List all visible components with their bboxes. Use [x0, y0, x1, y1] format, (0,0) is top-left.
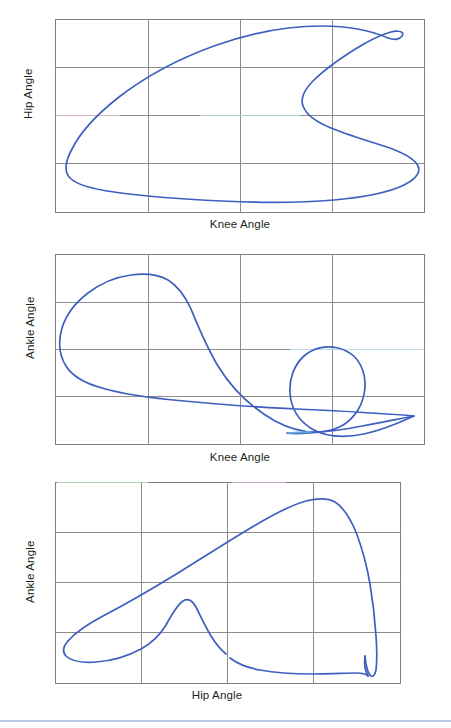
plot-area-ankle-hip: Ankle Angle Hip Angle — [0, 474, 451, 714]
plot-area-ankle-knee: Ankle Angle Knee Angle — [0, 238, 451, 474]
ankle-hip-plot-svg — [0, 474, 451, 714]
y-axis-label-ankle-angle: Ankle Angle — [0, 322, 56, 334]
cyclogram-panel-ankle-hip: Ankle Angle Hip Angle — [0, 474, 451, 714]
cyclogram-panel-ankle-knee: Ankle Angle Knee Angle — [0, 238, 451, 474]
cyclogram-tail-tip-highlight — [290, 432, 310, 433]
y-axis-label-hip-angle: Hip Angle — [0, 88, 56, 100]
footer-divider-rule — [0, 720, 451, 722]
y-axis-label-ankle-angle: Ankle Angle — [0, 566, 56, 578]
x-axis-label-knee-angle: Knee Angle — [55, 451, 425, 463]
hip-knee-plot-svg — [0, 0, 451, 238]
x-axis-label-hip-angle: Hip Angle — [32, 689, 402, 701]
ankle-knee-plot-svg — [0, 238, 451, 474]
cyclogram-panel-hip-knee: Hip Angle Knee Angle — [0, 0, 451, 238]
plot-area-hip-knee: Hip Angle Knee Angle — [0, 0, 451, 238]
x-axis-label-knee-angle: Knee Angle — [55, 218, 425, 230]
